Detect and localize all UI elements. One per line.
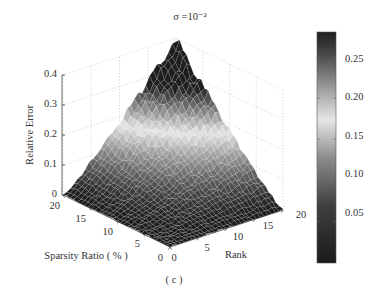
x-tick-label: 15 <box>263 220 274 231</box>
x-tick-label: 0 <box>171 252 176 263</box>
x-tick-label: 20 <box>296 209 307 220</box>
z-tick-label: 0 <box>52 188 57 199</box>
y-tick-mark <box>170 247 172 250</box>
y-tick-label: 20 <box>50 200 61 211</box>
colorbar-tick-label: 0.25 <box>345 53 363 64</box>
y-tick-label: 5 <box>135 238 140 249</box>
colorbar-tick-label: 0.20 <box>345 91 363 102</box>
z-tick-label: 0.2 <box>44 128 57 139</box>
colorbar <box>317 32 336 263</box>
surface-mesh <box>63 40 283 247</box>
colorbar-tick-label: 0.15 <box>345 130 363 141</box>
y-axis-label: Sparsity Ratio ( % ) <box>44 250 128 262</box>
surface-plot-figure: σ =10⁻² 0 0.1 0.2 0.3 0.4 Relative Error… <box>0 0 378 299</box>
colorbar-tick-label: 0.05 <box>345 207 363 218</box>
y-tick-label: 10 <box>103 226 114 237</box>
z-tick-label: 0.4 <box>44 68 58 79</box>
z-tick-label: 0.1 <box>44 158 57 169</box>
x-tick-label: 5 <box>204 242 209 253</box>
z-axis-label: Relative Error <box>24 105 35 165</box>
figure-caption: ( c ) <box>166 274 183 286</box>
chart-title: σ =10⁻² <box>173 11 206 22</box>
x-axis-label: Rank <box>225 249 248 260</box>
colorbar-tick-label: 0.10 <box>345 168 363 179</box>
x-tick-label: 10 <box>233 231 244 242</box>
z-tick-label: 0.3 <box>44 98 57 109</box>
y-tick-label: 15 <box>76 213 87 224</box>
y-tick-label: 0 <box>158 252 163 263</box>
